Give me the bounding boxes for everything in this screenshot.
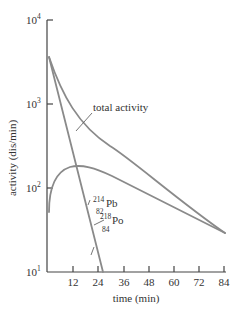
axes (47, 20, 226, 272)
x-tick-12: 12 (68, 276, 79, 288)
y-tick-10-1: 101 (26, 264, 41, 278)
y-tick-labels: 104 103 102 101 (26, 12, 41, 278)
total-activity-curve (49, 57, 225, 233)
svg-text:214: 214 (93, 195, 105, 204)
pb-214-curve (49, 166, 225, 233)
svg-text:Pb: Pb (106, 197, 118, 209)
x-tick-60: 60 (169, 276, 181, 288)
svg-text:84: 84 (102, 225, 110, 234)
curves (49, 57, 225, 272)
y-tick-10-3: 103 (26, 96, 41, 110)
y-tick-10-4: 104 (26, 12, 41, 26)
decay-chart: 104 103 102 101 12 24 36 48 60 72 84 tim… (0, 0, 241, 315)
po-218-label: 218 84 Po (100, 212, 124, 234)
y-axis-label: activity (dis/min) (6, 120, 19, 196)
x-tick-72: 72 (194, 276, 205, 288)
y-tick-10-2: 102 (26, 180, 41, 194)
x-axis-label: time (min) (113, 292, 160, 305)
x-tick-24: 24 (93, 276, 105, 288)
x-tick-36: 36 (119, 276, 131, 288)
svg-text:218: 218 (100, 212, 112, 221)
x-tick-84: 84 (219, 276, 231, 288)
total-activity-label: total activity (93, 101, 149, 113)
po-218-curve (49, 57, 103, 272)
svg-text:Po: Po (112, 214, 124, 226)
x-tick-48: 48 (144, 276, 156, 288)
x-tick-labels: 12 24 36 48 60 72 84 (68, 276, 231, 288)
